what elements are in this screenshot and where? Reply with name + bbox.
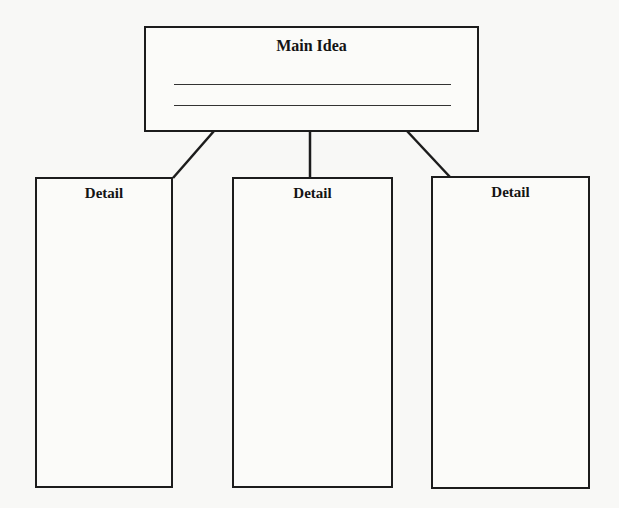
detail-title-2: Detail (234, 185, 391, 202)
detail-box-1[interactable]: Detail (35, 177, 173, 488)
main-idea-title: Main Idea (146, 37, 477, 55)
writing-line-2[interactable] (174, 105, 451, 106)
main-idea-box: Main Idea (144, 26, 479, 132)
detail-box-3[interactable]: Detail (431, 176, 590, 489)
connector-right (407, 131, 450, 177)
connector-left (173, 131, 214, 178)
detail-title-1: Detail (37, 185, 171, 202)
writing-line-1[interactable] (174, 84, 451, 85)
detail-box-2[interactable]: Detail (232, 177, 393, 488)
detail-title-3: Detail (433, 184, 588, 201)
worksheet-page: Main Idea Detail Detail Detail (0, 0, 619, 508)
